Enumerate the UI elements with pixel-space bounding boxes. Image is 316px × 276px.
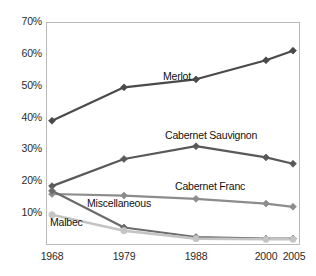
data-point — [290, 47, 297, 54]
data-point — [263, 57, 270, 64]
series-line-merlot — [52, 51, 293, 121]
data-point — [121, 156, 128, 163]
series-label-miscellaneous: Miscellaneous — [87, 197, 151, 209]
series-label-cabernet-franc: Cabernet Franc — [175, 180, 245, 192]
data-point — [263, 236, 269, 242]
data-point — [290, 203, 297, 210]
data-point — [121, 228, 127, 234]
data-point — [49, 117, 56, 124]
data-point — [193, 195, 200, 202]
series-line-cabernet-sauvignon — [52, 146, 293, 186]
series-label-cabernet-sauvignon: Cabernet Sauvignon — [165, 129, 257, 141]
series-label-merlot: Merlot — [163, 70, 191, 82]
line-chart: 70% 60% 50% 40% 30% 20% 10% 1968 1979 19… — [0, 0, 316, 276]
series-label-malbec: Malbec — [50, 216, 83, 228]
data-point — [290, 160, 297, 167]
data-point — [263, 154, 270, 161]
series-line-malbec — [52, 215, 293, 240]
data-point — [193, 236, 199, 242]
data-point — [193, 76, 200, 83]
data-point — [193, 143, 200, 150]
series-layer — [0, 0, 316, 276]
data-point — [121, 84, 128, 91]
data-point — [263, 200, 270, 207]
data-point — [290, 236, 296, 242]
